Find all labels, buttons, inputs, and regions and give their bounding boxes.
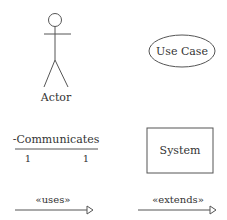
hollow-triangle-arrow-icon [87, 206, 93, 214]
association-symbol: -Communicates 1 1 [13, 133, 100, 164]
multiplicity-right: 1 [83, 153, 89, 164]
uses-label: «uses» [36, 194, 71, 205]
multiplicity-left: 1 [25, 153, 31, 164]
extends-label: «extends» [152, 194, 204, 205]
use-case-label: Use Case [156, 45, 208, 58]
uml-legend-canvas: Actor Use Case -Communicates 1 1 System … [0, 0, 227, 220]
extends-relationship: «extends» [138, 194, 216, 214]
system-label: System [160, 144, 201, 157]
actor-symbol: Actor [40, 14, 72, 105]
actor-label: Actor [40, 91, 72, 104]
stick-figure-icon [44, 14, 71, 88]
system-symbol: System [147, 128, 213, 173]
hollow-triangle-arrow-icon [210, 206, 216, 214]
uses-relationship: «uses» [15, 194, 93, 214]
association-label: -Communicates [13, 133, 100, 146]
use-case-symbol: Use Case [149, 35, 215, 67]
